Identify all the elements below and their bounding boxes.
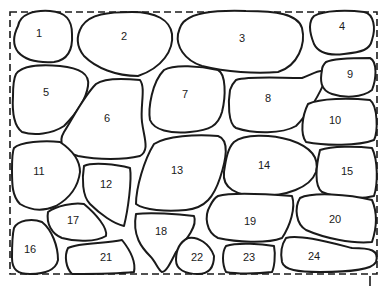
stone-label: 5 [43,86,49,98]
stone-23: 23 [223,244,275,274]
stone-label: 16 [24,243,36,255]
stone-label: 4 [339,20,345,32]
stone-11: 11 [12,141,80,209]
stone-label: 11 [33,165,44,177]
stone-15: 15 [317,147,377,198]
stone-label: 17 [67,214,79,226]
stone-label: 24 [308,250,320,262]
stone-outline [224,136,317,196]
stone-label: 15 [341,165,353,177]
stone-pattern-diagram: 123456789101112131415161718192021222324 [0,0,387,286]
stone-label: 2 [121,30,127,42]
stone-label: 3 [239,32,245,44]
stone-label: 7 [182,88,188,100]
stone-20: 20 [297,194,376,242]
stone-21: 21 [66,240,134,274]
stone-label: 22 [191,251,203,263]
stone-label: 9 [347,68,353,80]
stone-label: 14 [258,159,270,171]
stone-3: 3 [178,11,303,73]
stone-label: 21 [100,251,112,263]
stone-7: 7 [150,66,225,132]
stones-group: 123456789101112131415161718192021222324 [12,11,377,274]
stone-outline [78,12,172,76]
stone-14: 14 [224,136,317,196]
stone-outline [12,141,80,209]
stone-4: 4 [310,11,374,55]
stone-label: 8 [265,92,271,104]
stone-outline [14,11,72,62]
stone-label: 6 [104,112,110,124]
stone-label: 19 [244,215,256,227]
stone-13: 13 [136,135,226,210]
stone-1: 1 [14,11,72,62]
stone-19: 19 [207,194,294,242]
stone-label: 1 [36,27,42,39]
stone-9: 9 [321,58,375,97]
stone-label: 23 [243,251,255,263]
stone-10: 10 [302,99,376,145]
stone-22: 22 [176,238,214,274]
stone-label: 18 [155,225,167,237]
stone-2: 2 [78,12,172,76]
stone-label: 12 [100,178,112,190]
stone-label: 13 [171,164,183,176]
stone-label: 20 [329,213,341,225]
stone-outline [310,11,374,55]
stone-label: 10 [329,114,341,126]
